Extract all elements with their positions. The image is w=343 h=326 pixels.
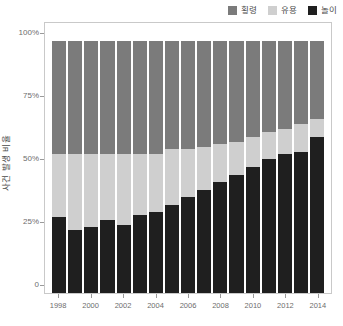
- y-axis-tick-label: 0: [0, 280, 44, 290]
- x-axis-tick-mark: [58, 294, 59, 298]
- bar[interactable]: [68, 41, 82, 293]
- bar-segment[interactable]: [262, 41, 276, 132]
- x-axis-tick-label: 2014: [298, 301, 338, 311]
- bar[interactable]: [149, 41, 163, 293]
- bar[interactable]: [133, 41, 147, 293]
- bar-segment[interactable]: [278, 129, 292, 154]
- bar-segment[interactable]: [294, 124, 308, 152]
- y-axis-tick-label: 75%: [0, 91, 44, 101]
- bar-segment[interactable]: [310, 41, 324, 119]
- legend-item-1[interactable]: 유용: [268, 6, 297, 15]
- bar-segment[interactable]: [213, 41, 227, 144]
- x-axis-tick-mark: [91, 294, 92, 298]
- bar-segment[interactable]: [165, 41, 179, 149]
- x-axis-tick-mark: [285, 294, 286, 298]
- y-axis-tick-label: 50%: [0, 154, 44, 164]
- bar-segment[interactable]: [52, 217, 66, 293]
- bar-segment[interactable]: [84, 154, 98, 227]
- bar[interactable]: [84, 41, 98, 293]
- bar-segment[interactable]: [133, 41, 147, 154]
- bar-segment[interactable]: [181, 41, 195, 149]
- x-axis-tick-mark: [318, 294, 319, 298]
- bar[interactable]: [229, 41, 243, 293]
- legend-item-2[interactable]: 놀이: [308, 6, 337, 15]
- legend-label: 놀이: [321, 6, 337, 15]
- legend-label: 유용: [281, 6, 297, 15]
- bar-segment[interactable]: [181, 149, 195, 197]
- stacked-bar-chart: 횡령 유용 놀이 사건 발생 비율 100%75%50%25%0 1998200…: [0, 0, 343, 326]
- bar-segment[interactable]: [133, 215, 147, 293]
- bar-segment[interactable]: [133, 154, 147, 214]
- bar-segment[interactable]: [165, 149, 179, 204]
- bar-segment[interactable]: [165, 205, 179, 293]
- bar[interactable]: [262, 41, 276, 293]
- bar-segment[interactable]: [294, 41, 308, 124]
- bar-segment[interactable]: [117, 225, 131, 293]
- bar-segment[interactable]: [310, 137, 324, 293]
- bar-segment[interactable]: [229, 142, 243, 175]
- bar-segment[interactable]: [181, 197, 195, 293]
- bar-segment[interactable]: [84, 227, 98, 293]
- bar[interactable]: [117, 41, 131, 293]
- legend-label: 횡령: [241, 6, 257, 15]
- bar[interactable]: [294, 41, 308, 293]
- bar-segment[interactable]: [84, 41, 98, 154]
- bar-segment[interactable]: [213, 182, 227, 293]
- bar-segment[interactable]: [278, 41, 292, 129]
- bar-segment[interactable]: [52, 154, 66, 217]
- bar-segment[interactable]: [262, 132, 276, 160]
- bar[interactable]: [197, 41, 211, 293]
- bar-segment[interactable]: [149, 212, 163, 293]
- x-axis-tick-mark: [220, 294, 221, 298]
- bar[interactable]: [278, 41, 292, 293]
- x-axis-tick-mark: [188, 294, 189, 298]
- bar-segment[interactable]: [117, 41, 131, 154]
- bar-segment[interactable]: [246, 137, 260, 167]
- bar-segment[interactable]: [213, 144, 227, 182]
- x-axis-tick-mark: [253, 294, 254, 298]
- chart-legend: 횡령 유용 놀이: [228, 3, 337, 17]
- legend-item-0[interactable]: 횡령: [228, 6, 257, 15]
- bar-segment[interactable]: [52, 41, 66, 154]
- bar[interactable]: [181, 41, 195, 293]
- legend-swatch-icon: [268, 6, 277, 15]
- bar-segment[interactable]: [246, 167, 260, 293]
- bar-segment[interactable]: [117, 154, 131, 225]
- legend-swatch-icon: [308, 6, 317, 15]
- x-axis-tick-mark: [156, 294, 157, 298]
- bar-segment[interactable]: [68, 154, 82, 230]
- bar-segment[interactable]: [100, 41, 114, 154]
- bar-segment[interactable]: [149, 154, 163, 212]
- bar-segment[interactable]: [229, 175, 243, 293]
- bar[interactable]: [100, 41, 114, 293]
- bar[interactable]: [52, 41, 66, 293]
- y-axis-tick-label: 100%: [0, 28, 44, 38]
- y-axis-tick-label: 25%: [0, 217, 44, 227]
- bar-segment[interactable]: [246, 41, 260, 137]
- bar-segment[interactable]: [197, 147, 211, 190]
- bar-segment[interactable]: [197, 190, 211, 293]
- bars-container: [45, 23, 331, 293]
- legend-swatch-icon: [228, 6, 237, 15]
- bar-segment[interactable]: [229, 41, 243, 142]
- bar[interactable]: [213, 41, 227, 293]
- bar-segment[interactable]: [294, 152, 308, 293]
- bar-segment[interactable]: [100, 220, 114, 293]
- bar-segment[interactable]: [262, 159, 276, 293]
- bar[interactable]: [165, 41, 179, 293]
- bar-segment[interactable]: [278, 154, 292, 293]
- bar-segment[interactable]: [310, 119, 324, 137]
- bar-segment[interactable]: [100, 154, 114, 220]
- x-axis-tick-mark: [123, 294, 124, 298]
- plot-area: [44, 22, 332, 294]
- bar-segment[interactable]: [197, 41, 211, 147]
- bar[interactable]: [310, 41, 324, 293]
- x-axis: 199820002002200420062008201020122014: [44, 294, 332, 320]
- y-axis-title: 사건 발생 비율: [0, 0, 12, 326]
- bar-segment[interactable]: [68, 230, 82, 293]
- bar-segment[interactable]: [149, 41, 163, 154]
- bar[interactable]: [246, 41, 260, 293]
- bar-segment[interactable]: [68, 41, 82, 154]
